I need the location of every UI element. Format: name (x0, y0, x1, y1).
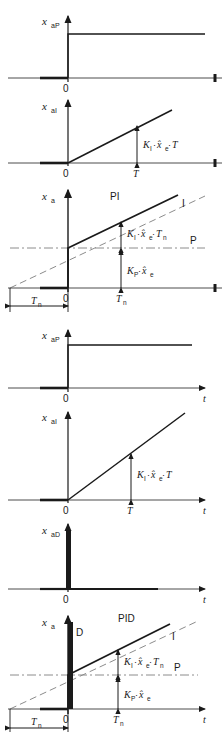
tn-axis-label-sub: n (123, 299, 127, 306)
ki-annotation: K I · x̂ e · T n (123, 656, 164, 669)
kp-annotation-sub-e: e (150, 271, 154, 278)
t-axis-label: t (203, 714, 206, 725)
t-axis-label: t (203, 393, 206, 404)
y-axis-label-sub: a (51, 623, 55, 630)
ki-annotation-sub-I: I (131, 662, 133, 669)
y-axis-label-sub: aI (51, 418, 57, 425)
tn-axis-label-sub: n (120, 720, 124, 727)
origin-label: 0 (63, 505, 69, 516)
tn-axis-label-T: T (116, 293, 123, 304)
ki-annotation-dot2: · (149, 657, 152, 667)
ki-annotation-dot1: · (137, 229, 140, 239)
tn-axis-label-T: T (113, 714, 120, 725)
origin-label: 0 (63, 168, 69, 179)
gain-annotation-xhat: x̂ (156, 139, 162, 150)
ki-annotation-dot1: · (134, 657, 137, 667)
kp-annotation-xhat: x̂ (141, 265, 147, 276)
y-axis-label-sub: aI (51, 107, 57, 114)
y-axis-label-sub: aD (51, 531, 60, 538)
p-curve-label: P (174, 662, 181, 673)
origin-label: 0 (63, 83, 69, 94)
kp-annotation-xhat: x̂ (138, 689, 144, 700)
gain-annotation-sub-I: I (150, 145, 152, 152)
control-response-diagram: x aP 0 x aI 0 T K I · x̂ e · T (0, 0, 222, 734)
gain-annotation: K I · x̂ e · T (136, 469, 173, 482)
step-response-curve (68, 34, 205, 78)
gain-annotation-sub-I: I (144, 475, 146, 482)
gain-annotation-dot1: · (147, 470, 150, 480)
gain-annotation-T: T (172, 139, 179, 150)
y-axis-label: x (41, 15, 47, 27)
ki-annotation-xhat: x̂ (137, 656, 143, 667)
y-axis-label: x (41, 616, 47, 628)
ki-annotation-sub-n: n (160, 662, 164, 669)
ki-annotation: K I · x̂ e · T n (126, 228, 167, 241)
chart-pid-i-component: x aI 0 T t K I · x̂ e · T (8, 411, 206, 516)
pi-sum-curve (68, 195, 178, 288)
chart-pid-sum: x a 0 t D PID I P T n T n K I · x̂ e · T… (8, 613, 206, 732)
chart-pid-p-component: x aP 0 t (8, 329, 206, 404)
tn-bracket-label-T: T (31, 716, 38, 727)
tn-bracket (10, 288, 68, 312)
ki-annotation-T: T (153, 656, 160, 667)
figure-root: x aP 0 x aI 0 T K I · x̂ e · T (0, 0, 222, 734)
tn-bracket-label-sub: n (38, 722, 42, 729)
tn-bracket-label-T: T (31, 295, 38, 306)
ki-annotation-T: T (156, 228, 163, 239)
chart-pi-i-component: x aI 0 T K I · x̂ e · T (8, 100, 222, 179)
i-dashed-ramp (10, 621, 198, 709)
d-spike-label: D (76, 627, 83, 638)
i-curve-label: I (172, 631, 175, 642)
tn-bracket-label: T n (31, 716, 42, 729)
chart-pi-sum: x a 0 PI I P T n T n K I · x̂ e · T n K … (8, 190, 222, 312)
y-axis-label: x (41, 329, 47, 341)
i-dashed-ramp (10, 196, 205, 288)
tn-axis-label: T n (116, 293, 127, 306)
gain-annotation: K I · x̂ e · T (142, 139, 179, 152)
y-axis-label-sub: aP (51, 22, 60, 29)
y-axis-label-sub: aP (51, 336, 60, 343)
y-axis-label-sub: a (51, 197, 55, 204)
kp-annotation-sub-e: e (147, 695, 151, 702)
y-axis-label: x (41, 524, 47, 536)
kp-annotation-dot: · (138, 266, 141, 276)
origin-label: 0 (63, 594, 69, 605)
T-tick-label: T (127, 505, 134, 516)
kp-annotation-dot: · (135, 690, 138, 700)
ki-annotation-dot2: · (152, 229, 155, 239)
t-axis-label: t (203, 505, 206, 516)
gain-annotation-xhat: x̂ (150, 469, 156, 480)
gain-annotation-dot2: · (162, 470, 165, 480)
t-axis-label: t (203, 594, 206, 605)
ki-annotation-sub-n: n (163, 234, 167, 241)
chart-pi-p-component: x aP 0 (8, 15, 222, 94)
gain-annotation-dot2: · (168, 140, 171, 150)
p-curve-label: P (190, 235, 197, 246)
kp-annotation: K P · x̂ e (123, 689, 151, 702)
integral-ramp-curve (68, 110, 172, 163)
origin-label: 0 (63, 714, 69, 725)
pi-curve-label: PI (110, 191, 119, 202)
gain-annotation-T: T (166, 469, 173, 480)
tn-axis-label: T n (113, 714, 124, 727)
ki-annotation-xhat: x̂ (140, 228, 146, 239)
y-axis-label: x (41, 411, 47, 423)
step-response-curve (68, 345, 192, 388)
integral-ramp-curve (68, 413, 185, 500)
ki-annotation-sub-I: I (134, 234, 136, 241)
gain-annotation-dot1: · (153, 140, 156, 150)
chart-pid-d-component: x aD 0 t (8, 524, 206, 605)
tn-bracket-label-sub: n (38, 301, 42, 308)
kp-annotation: K P · x̂ e (126, 265, 154, 278)
i-curve-label: I (182, 198, 185, 209)
y-axis-label: x (41, 100, 47, 112)
T-tick-label: T (133, 168, 140, 179)
pid-curve-label: PID (118, 613, 135, 624)
origin-label: 0 (63, 293, 69, 304)
y-axis-label: x (41, 190, 47, 202)
derivative-impulse-spike (66, 531, 71, 589)
origin-label: 0 (63, 393, 69, 404)
